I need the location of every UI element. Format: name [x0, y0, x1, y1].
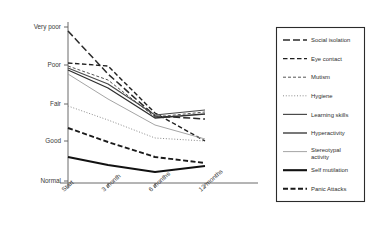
series-line: [68, 106, 205, 141]
legend-item-label: Mutism: [311, 74, 330, 80]
x-tick-label: Start: [60, 178, 75, 192]
y-tick-label: Fair: [50, 100, 62, 107]
y-tick-label: Very poor: [34, 23, 62, 31]
legend-item-label: Social isolation: [311, 37, 350, 43]
x-tick-label: 3 month: [100, 172, 122, 193]
x-tick-label: 6 months: [147, 170, 171, 193]
legend-item-label: Hyperactivity: [311, 130, 345, 136]
series-line: [68, 157, 205, 172]
series-layer: [68, 31, 205, 172]
series-line: [68, 68, 205, 115]
chart-axes: [60, 22, 258, 183]
y-tick-label: Good: [45, 137, 61, 144]
line-chart-svg: Very poorPoorFairGoodNormal Start3 month…: [0, 0, 371, 227]
y-tick-label: Normal: [40, 177, 61, 184]
x-axis-ticks: [68, 183, 205, 188]
series-line: [68, 63, 205, 141]
legend-item-label: Panic Attacks: [311, 186, 346, 192]
x-axis-labels: Start3 month6 months12 months: [60, 168, 224, 193]
chart-figure: Very poorPoorFairGoodNormal Start3 month…: [0, 0, 371, 227]
x-tick-label: 12 months: [197, 168, 224, 193]
y-axis-labels: Very poorPoorFairGoodNormal: [34, 23, 62, 184]
legend-item-label: Hygiene: [311, 93, 333, 99]
legend-item-label: Learning skills: [311, 112, 348, 118]
legend-item-label: Stereotypal: [311, 147, 341, 153]
series-line: [68, 66, 205, 117]
legend-item-label: Self mutilation: [311, 167, 348, 173]
legend-item-label: Eye contact: [311, 56, 342, 62]
y-tick-label: Poor: [48, 61, 62, 68]
y-axis-ticks: [64, 27, 68, 181]
legend-item-label-cont: activity: [311, 154, 329, 160]
